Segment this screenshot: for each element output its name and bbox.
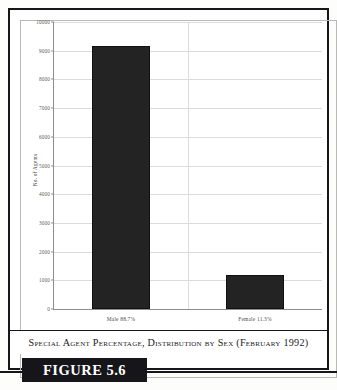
y-tick-mark [51,222,54,223]
plot-area: 1000090008000700060005000400030002000100… [53,22,322,310]
y-tick-mark [51,309,54,310]
y-tick-label: 1000 [39,277,50,283]
y-tick-label: 9000 [39,48,50,54]
y-tick-label: 4000 [39,191,50,197]
y-tick-label: 5000 [39,163,50,169]
bar-female [226,275,285,309]
y-tick-label: 10000 [36,19,50,25]
category-divider [188,22,189,309]
figure-number-label: FIGURE 5.6 [43,362,126,379]
y-tick-mark [51,251,54,252]
x-tick-label: Male 88.7% [107,316,135,322]
figure-caption: Special Agent Percentage, Distribution b… [29,337,309,348]
y-gridline [54,309,322,310]
y-tick-label: 0 [47,306,50,312]
y-tick-label: 8000 [39,76,50,82]
y-axis-title: No. of Agents [32,154,38,187]
figure-page: No. of Agents 10000900080007000600050004… [0,0,337,390]
y-tick-mark [51,79,54,80]
y-tick-mark [51,50,54,51]
y-tick-mark [51,136,54,137]
y-tick-mark [51,22,54,23]
y-tick-label: 6000 [39,134,50,140]
bar-chart: No. of Agents 10000900080007000600050004… [10,10,327,330]
y-tick-mark [51,280,54,281]
y-tick-mark [51,165,54,166]
figure-caption-band: Special Agent Percentage, Distribution b… [10,330,327,354]
y-tick-label: 7000 [39,105,50,111]
bar-male [92,46,151,309]
x-tick-label: Female 11.3% [238,316,271,322]
figure-number-banner: FIGURE 5.6 [22,358,147,382]
y-tick-label: 3000 [39,220,50,226]
y-tick-mark [51,108,54,109]
y-tick-mark [51,194,54,195]
y-tick-label: 2000 [39,249,50,255]
